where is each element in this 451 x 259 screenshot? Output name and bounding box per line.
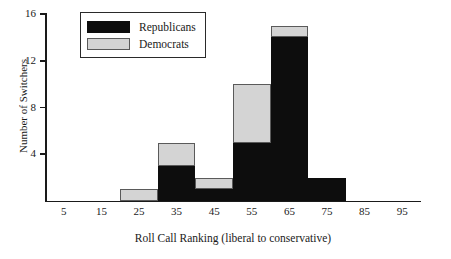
bar-segment-republicans-45 xyxy=(195,189,233,201)
bar-segment-democrats-55 xyxy=(233,84,271,142)
bar-segment-democrats-45 xyxy=(195,178,233,190)
bar-group-45 xyxy=(195,178,233,201)
x-axis-title: Roll Call Ranking (liberal to conservati… xyxy=(45,232,421,244)
x-tick-label-95: 95 xyxy=(382,205,422,217)
bar-segment-republicans-55 xyxy=(233,143,271,201)
legend-label-democrats: Democrats xyxy=(139,38,189,50)
legend-item-democrats: Democrats xyxy=(87,35,196,52)
legend-label-republicans: Republicans xyxy=(139,21,196,33)
x-tick-label-5: 5 xyxy=(44,205,84,217)
y-axis-title: Number of Switchers xyxy=(17,26,29,186)
x-tick-label-25: 25 xyxy=(119,205,159,217)
black-swatch-icon xyxy=(87,21,130,33)
x-tick-label-65: 65 xyxy=(269,205,309,217)
bar-segment-democrats-35 xyxy=(158,143,196,166)
bar-segment-republicans-35 xyxy=(158,166,196,201)
x-tick-label-55: 55 xyxy=(232,205,272,217)
bar-segment-democrats-65 xyxy=(271,26,309,38)
histogram-figure: 481216 5152535455565758595 Number of Swi… xyxy=(0,0,451,259)
bar-group-75 xyxy=(308,178,346,201)
bar-segment-democrats-25 xyxy=(120,189,158,201)
gray-swatch-icon xyxy=(87,38,130,50)
bar-group-55 xyxy=(233,84,271,201)
legend-item-republicans: Republicans xyxy=(87,18,196,35)
x-tick-label-45: 45 xyxy=(194,205,234,217)
bar-group-65 xyxy=(271,26,309,201)
x-tick-label-75: 75 xyxy=(307,205,347,217)
x-tick-label-15: 15 xyxy=(81,205,121,217)
x-tick-label-85: 85 xyxy=(345,205,385,217)
bar-segment-republicans-75 xyxy=(308,178,346,201)
x-tick-label-35: 35 xyxy=(157,205,197,217)
y-tick-label-16: 16 xyxy=(8,7,36,19)
bar-group-35 xyxy=(158,143,196,201)
bar-group-25 xyxy=(120,189,158,201)
chart-legend: Republicans Democrats xyxy=(80,12,206,58)
bar-segment-republicans-65 xyxy=(271,37,309,201)
